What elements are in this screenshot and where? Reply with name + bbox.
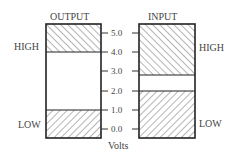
output-low-region xyxy=(46,110,101,138)
tick-0: 0.0 xyxy=(111,125,122,134)
tick-2: 2.0 xyxy=(111,87,122,96)
output-low-label: LOW xyxy=(18,120,41,130)
input-high-region xyxy=(139,24,195,75)
tick-1: 1.0 xyxy=(111,106,122,115)
input-low-label: LOW xyxy=(199,119,222,129)
output-box xyxy=(46,24,101,138)
axis-label-volts: Volts xyxy=(108,141,128,151)
tick-4: 4.0 xyxy=(111,48,122,57)
output-high-label: HIGH xyxy=(14,42,39,52)
output-high-region xyxy=(46,24,101,52)
voltage-level-diagram xyxy=(0,0,240,158)
input-box xyxy=(139,24,195,138)
output-title: OUTPUT xyxy=(50,12,89,22)
input-title: INPUT xyxy=(148,12,177,22)
tick-5: 5.0 xyxy=(111,29,122,38)
tick-3: 3.0 xyxy=(111,67,122,76)
input-high-label: HIGH xyxy=(199,43,224,53)
input-low-region xyxy=(139,91,195,138)
